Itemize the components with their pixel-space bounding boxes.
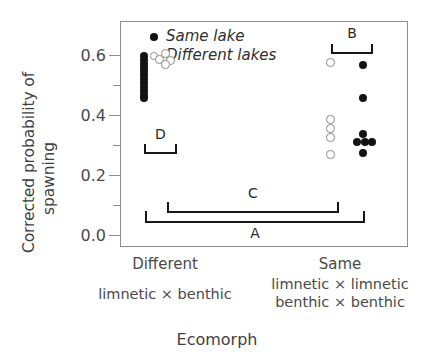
y-tick-label-0.2: 0.2 — [64, 166, 106, 185]
y-tick-label-wrap-0.6: 0.6 — [60, 46, 106, 62]
data-point — [326, 115, 335, 124]
x-category-label-different: Different — [105, 255, 225, 273]
y-axis-label: Corrected probability of spawning — [0, 0, 62, 270]
bracket-bar — [144, 152, 177, 154]
y-tick-0.4 — [109, 115, 120, 116]
y-axis-label-line-2: spawning — [40, 142, 58, 215]
data-point — [359, 94, 367, 102]
data-point — [359, 130, 367, 138]
bracket-label-A: A — [145, 225, 365, 241]
bracket-tick-right — [363, 211, 365, 223]
y-tick-0.5 — [113, 85, 120, 86]
x-category-label-same: Same — [285, 255, 395, 273]
bracket-label-C: C — [167, 185, 339, 201]
y-tick-0.3 — [113, 145, 120, 146]
bracket-label-D: D — [144, 126, 177, 142]
significance-bracket-B — [331, 44, 373, 54]
data-point — [359, 61, 367, 69]
y-tick-0.6 — [109, 55, 120, 56]
data-point — [326, 133, 335, 142]
y-tick-label-wrap-0.2: 0.2 — [60, 166, 106, 182]
bracket-bar — [145, 221, 365, 223]
plot-area: Same lake Different lakes — [120, 21, 408, 247]
significance-bracket-D — [144, 144, 177, 154]
bracket-tick-left — [331, 44, 333, 54]
bracket-tick-right — [371, 44, 373, 54]
bracket-tick-left — [144, 144, 146, 154]
x-sublabel-different-1: limnetic × benthic — [75, 286, 255, 303]
filled-circle-icon — [150, 33, 158, 41]
bracket-tick-right — [175, 144, 177, 154]
y-tick-label-0.6: 0.6 — [64, 46, 106, 65]
y-tick-0.0 — [109, 235, 120, 236]
y-axis-label-line-1: Corrected probability of — [20, 72, 38, 253]
y-tick-label-0.0: 0.0 — [64, 226, 106, 245]
data-point — [353, 138, 361, 146]
data-point — [140, 94, 148, 102]
data-point — [326, 124, 335, 133]
significance-bracket-A — [145, 211, 365, 223]
x-axis-label: Ecomorph — [0, 330, 434, 349]
y-tick-label-0.4: 0.4 — [64, 106, 106, 125]
figure-scatter-plot: Corrected probability of spawning 0.6 0.… — [0, 0, 434, 362]
y-tick-label-wrap-0.0: 0.0 — [60, 226, 106, 242]
bracket-bar — [331, 52, 373, 54]
data-point — [326, 150, 335, 159]
data-point — [161, 60, 170, 69]
data-point — [326, 58, 335, 67]
bracket-label-B: B — [331, 25, 373, 41]
legend-item-same-lake: Same lake — [150, 27, 310, 46]
bracket-tick-left — [145, 211, 147, 223]
legend-label-different-lakes: Different lakes — [166, 46, 276, 65]
y-tick-label-wrap-0.4: 0.4 — [60, 106, 106, 122]
x-sublabel-same-2: benthic × benthic — [250, 294, 430, 311]
y-tick-0.2 — [109, 175, 120, 176]
data-point — [368, 138, 376, 146]
x-sublabel-same-1: limnetic × limnetic — [250, 276, 430, 293]
data-point — [359, 149, 367, 157]
y-tick-0.1 — [113, 205, 120, 206]
legend-label-same-lake: Same lake — [166, 27, 245, 46]
